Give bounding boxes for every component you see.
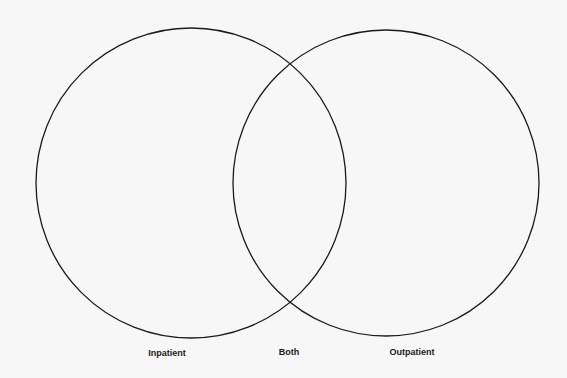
inpatient-circle [36,28,346,338]
outpatient-label: Outpatient [390,347,435,357]
venn-circles [0,0,567,378]
both-label: Both [279,347,300,357]
venn-diagram: Inpatient Both Outpatient [0,0,567,378]
outpatient-circle [233,30,539,336]
inpatient-label: Inpatient [148,348,186,358]
